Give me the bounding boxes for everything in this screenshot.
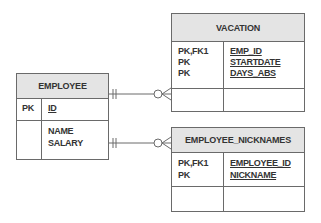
column-divider — [41, 120, 42, 160]
key-label: PK — [178, 169, 208, 181]
employee-nicknames-entity[interactable]: EMPLOYEE_NICKNAMES PK,FK1 PK EMPLOYEE_ID… — [171, 127, 305, 212]
attribute-salary: SALARY — [48, 137, 83, 149]
employee-nicknames-entity-header: EMPLOYEE_NICKNAMES — [172, 128, 304, 153]
attribute-days-abs: DAYS_ABS — [230, 68, 280, 79]
key-label: PK — [178, 57, 208, 68]
employee-pk-section: PK ID — [17, 98, 108, 121]
relationship-employee-nicknames[interactable] — [108, 135, 172, 151]
employee-attr-section: NAME SALARY — [17, 120, 108, 160]
employee-pk-attributes: ID — [48, 103, 56, 114]
attribute-id: ID — [48, 103, 56, 114]
employee-entity-header: EMPLOYEE — [17, 74, 108, 99]
attribute-name: NAME — [48, 125, 83, 137]
vacation-pk-section: PK,FK1 PK PK EMP_ID STARTDATE DAYS_ABS — [172, 41, 304, 89]
relationship-employee-vacation[interactable] — [108, 86, 172, 102]
column-divider — [41, 98, 42, 120]
attribute-employee-id: EMPLOYEE_ID — [230, 157, 291, 169]
column-divider — [223, 152, 224, 186]
employee-key-labels: PK — [22, 103, 34, 114]
employee-nicknames-key-labels: PK,FK1 PK — [178, 157, 208, 181]
attribute-startdate: STARTDATE — [230, 57, 280, 68]
vacation-key-labels: PK,FK1 PK PK — [178, 46, 208, 79]
employee-nicknames-attr-section — [172, 186, 304, 212]
employee-nicknames-pk-section: PK,FK1 PK EMPLOYEE_ID NICKNAME — [172, 152, 304, 187]
employee-attributes: NAME SALARY — [48, 125, 83, 149]
column-divider — [223, 186, 224, 212]
employee-nicknames-pk-attributes: EMPLOYEE_ID NICKNAME — [230, 157, 291, 181]
vacation-entity-header: VACATION — [172, 14, 304, 42]
vacation-entity[interactable]: VACATION PK,FK1 PK PK EMP_ID STARTDATE D… — [171, 13, 305, 112]
column-divider — [223, 41, 224, 88]
vacation-pk-attributes: EMP_ID STARTDATE DAYS_ABS — [230, 46, 280, 79]
employee-entity[interactable]: EMPLOYEE PK ID NAME SALARY — [16, 73, 109, 160]
attribute-emp-id: EMP_ID — [230, 46, 280, 57]
key-label: PK,FK1 — [178, 46, 208, 57]
key-label: PK,FK1 — [178, 157, 208, 169]
key-label: PK — [178, 68, 208, 79]
key-label: PK — [22, 103, 34, 114]
attribute-nickname: NICKNAME — [230, 169, 291, 181]
column-divider — [223, 88, 224, 112]
vacation-attr-section — [172, 88, 304, 112]
